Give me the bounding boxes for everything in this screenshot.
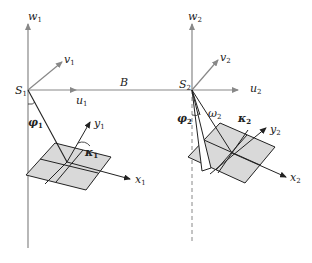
- kappa2-label: κ: [237, 112, 246, 125]
- svg-text:w1: w1: [28, 10, 42, 24]
- v2-axis: [192, 60, 218, 90]
- baseline-label: B: [119, 76, 128, 89]
- svg-text:v1: v1: [64, 53, 75, 67]
- svg-text:u2: u2: [250, 82, 262, 96]
- svg-text:v2: v2: [220, 51, 231, 65]
- u1-label: u: [76, 94, 83, 107]
- svg-text:y1: y1: [93, 117, 105, 131]
- v1-axis: [28, 62, 62, 90]
- svg-text:κ1: κ1: [84, 146, 98, 160]
- kappa1-label: κ: [84, 146, 93, 159]
- right-system: w2 v2 S2 u2 φ2 ω2 κ2 y2 x2: [177, 10, 301, 243]
- svg-text:x1: x1: [135, 173, 146, 187]
- svg-text:S2: S2: [179, 78, 191, 92]
- svg-text:φ2: φ2: [177, 112, 192, 126]
- svg-text:x2: x2: [290, 171, 301, 185]
- svg-text:S1: S1: [15, 84, 27, 98]
- left-system: w1 v1 S1 u1 φ1 y1 κ1 x1: [15, 10, 192, 248]
- omega2-label: ω: [208, 107, 217, 120]
- svg-text:ω2: ω2: [208, 107, 221, 121]
- u2-label: u: [250, 82, 257, 95]
- svg-text:u1: u1: [76, 94, 88, 108]
- phi1-arc: [28, 102, 35, 104]
- phi2-label: φ: [177, 112, 187, 125]
- phi1-label: φ: [28, 116, 38, 129]
- diagram-canvas: w1 v1 S1 u1 φ1 y1 κ1 x1 B: [0, 0, 312, 263]
- svg-text:φ1: φ1: [28, 116, 43, 130]
- svg-text:y2: y2: [269, 123, 281, 137]
- svg-text:w2: w2: [188, 10, 202, 24]
- svg-text:κ2: κ2: [237, 112, 251, 126]
